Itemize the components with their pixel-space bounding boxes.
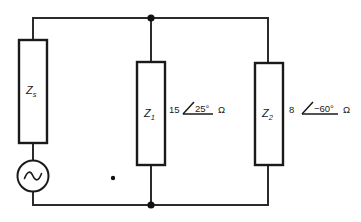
- branch2-impedance-label: Z2: [262, 108, 273, 122]
- branch2-angle-slant-icon: [302, 102, 313, 114]
- node-top-junction-dot: [147, 14, 154, 21]
- source-impedance-label: Zs: [26, 85, 36, 99]
- branch1-unit: Ω: [218, 105, 225, 115]
- branch2-magnitude: 8: [289, 105, 294, 115]
- branch1-magnitude: 15: [169, 105, 180, 115]
- branch2-unit: Ω: [343, 105, 350, 115]
- circuit-schematic: [0, 0, 361, 222]
- reference-dot: [111, 176, 115, 180]
- circuit-diagram-canvas: Zs Z1 15 25° Ω Z2 8 −60° Ω: [0, 0, 361, 222]
- branch1-angle-slant-icon: [183, 102, 194, 114]
- branch1-symbol: Z: [144, 107, 151, 119]
- node-bottom-junction-dot: [147, 201, 154, 208]
- source-impedance-symbol: Z: [26, 84, 33, 96]
- branch2-angle-value: −60°: [314, 104, 334, 114]
- branch2-subscript: 2: [269, 113, 273, 122]
- branch1-angle-value: 25°: [195, 104, 209, 114]
- branch1-subscript: 1: [151, 113, 155, 122]
- branch2-symbol: Z: [262, 107, 269, 119]
- branch1-impedance-label: Z1: [144, 108, 155, 122]
- source-impedance-subscript: s: [33, 90, 37, 99]
